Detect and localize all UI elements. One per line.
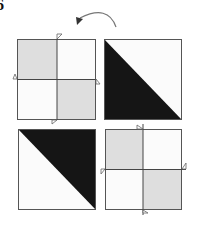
tile-top-left-quartered (13, 34, 100, 124)
tile-top-right-diagonal (104, 39, 182, 120)
puzzle-diagram (0, 0, 197, 228)
curved-arrow-icon (76, 13, 116, 27)
tile-bottom-left-diagonal (18, 129, 96, 210)
tile-bottom-right-quartered (101, 124, 186, 215)
